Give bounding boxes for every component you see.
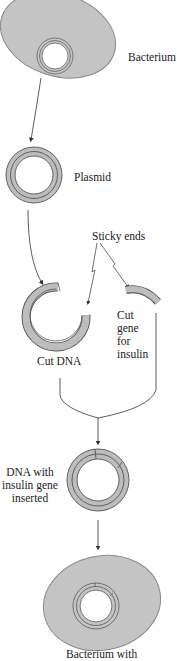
label-dna-with-insulin: DNA with insulin gene inserted xyxy=(0,466,60,505)
label-cut-dna: Cut DNA xyxy=(37,355,81,368)
converge-line-left xyxy=(60,378,98,418)
label-dna-with-insulin-line3: inserted xyxy=(0,492,60,505)
cut-dna-ring xyxy=(26,283,86,347)
arrow-to-plasmid xyxy=(31,78,41,140)
label-bacterium: Bacterium xyxy=(128,51,176,64)
plasmid-ring xyxy=(6,147,62,203)
label-plasmid: Plasmid xyxy=(74,171,111,184)
label-cut-gene-line2: gene xyxy=(117,322,148,335)
cut-insulin-gene xyxy=(126,289,158,303)
recombinant-dna-ring xyxy=(67,449,129,511)
label-cut-gene-line3: for xyxy=(117,335,148,348)
label-sticky-ends: Sticky ends xyxy=(92,230,145,243)
label-bacterium-with: Bacterium with xyxy=(66,648,137,661)
label-cut-gene: Cut gene for insulin xyxy=(117,309,148,361)
bacterium-top xyxy=(0,0,127,92)
label-cut-gene-line4: insulin xyxy=(117,348,148,361)
sticky-ends-pointers xyxy=(88,243,128,303)
label-cut-gene-line1: Cut xyxy=(117,309,148,322)
bacterium-bottom xyxy=(35,545,170,656)
arrow-to-cut-dna xyxy=(28,210,42,283)
label-dna-with-insulin-line1: DNA with xyxy=(0,466,60,479)
label-dna-with-insulin-line2: insulin gene xyxy=(0,479,60,492)
